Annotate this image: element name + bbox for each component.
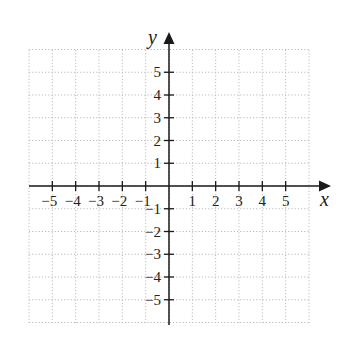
coordinate-plane: −5−4−3−2−11234554321−1−2−3−4−5 x y [0, 0, 346, 340]
y-tick-label: 2 [154, 133, 162, 149]
x-tick-label: 4 [259, 193, 267, 209]
y-tick-label: 5 [154, 64, 162, 80]
x-tick-label: 5 [282, 193, 290, 209]
y-tick-label: −1 [145, 201, 161, 217]
y-axis-label: y [146, 26, 157, 49]
y-tick-label: −2 [145, 224, 161, 240]
x-tick-label: −3 [88, 193, 104, 209]
y-tick-label: −5 [145, 292, 161, 308]
x-tick-label: 3 [235, 193, 243, 209]
y-tick-label: −3 [145, 246, 161, 262]
x-tick-label: 2 [212, 193, 220, 209]
x-tick-label: −2 [111, 193, 127, 209]
y-tick-label: −4 [145, 269, 161, 285]
x-axis-label: x [319, 188, 329, 210]
x-tick-label: −5 [41, 193, 57, 209]
y-tick-label: 1 [154, 155, 162, 171]
y-tick-label: 4 [154, 87, 162, 103]
y-tick-label: 3 [154, 110, 162, 126]
x-tick-label: 1 [189, 193, 197, 209]
y-axis-arrow-icon [164, 32, 175, 44]
x-tick-label: −4 [65, 193, 81, 209]
